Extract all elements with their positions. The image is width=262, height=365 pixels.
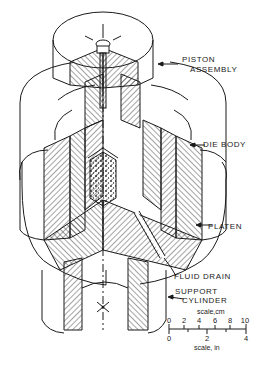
in-tick-2: 2 xyxy=(205,335,209,343)
in-tick-4: 4 xyxy=(244,335,248,343)
in-tick-0: 0 xyxy=(167,335,171,343)
die-assembly-diagram: PISTON ASSEMBLY DIE BODY PLATEN FLUID DR… xyxy=(0,0,262,365)
label-cylinder: CYLINDER xyxy=(182,296,227,305)
cm-tick-0: 0 xyxy=(167,317,171,325)
scale-cm-label: scale,cm xyxy=(197,308,225,316)
label-fluid-drain: FLUID DRAIN xyxy=(174,272,231,281)
label-platen: PLATEN xyxy=(208,222,242,231)
cm-tick-10: 10 xyxy=(241,317,249,325)
label-piston: PISTON xyxy=(182,55,215,64)
cm-tick-6: 6 xyxy=(213,317,217,325)
cm-tick-8: 8 xyxy=(228,317,232,325)
cm-tick-2: 2 xyxy=(182,317,186,325)
scale-in-label: scale, in xyxy=(194,344,220,352)
label-support: SUPPORT xyxy=(175,287,218,296)
cm-tick-4: 4 xyxy=(197,317,201,325)
scale-bar xyxy=(169,324,246,334)
label-die-body: DIE BODY xyxy=(203,140,246,149)
label-assembly: ASSEMBLY xyxy=(190,65,237,74)
